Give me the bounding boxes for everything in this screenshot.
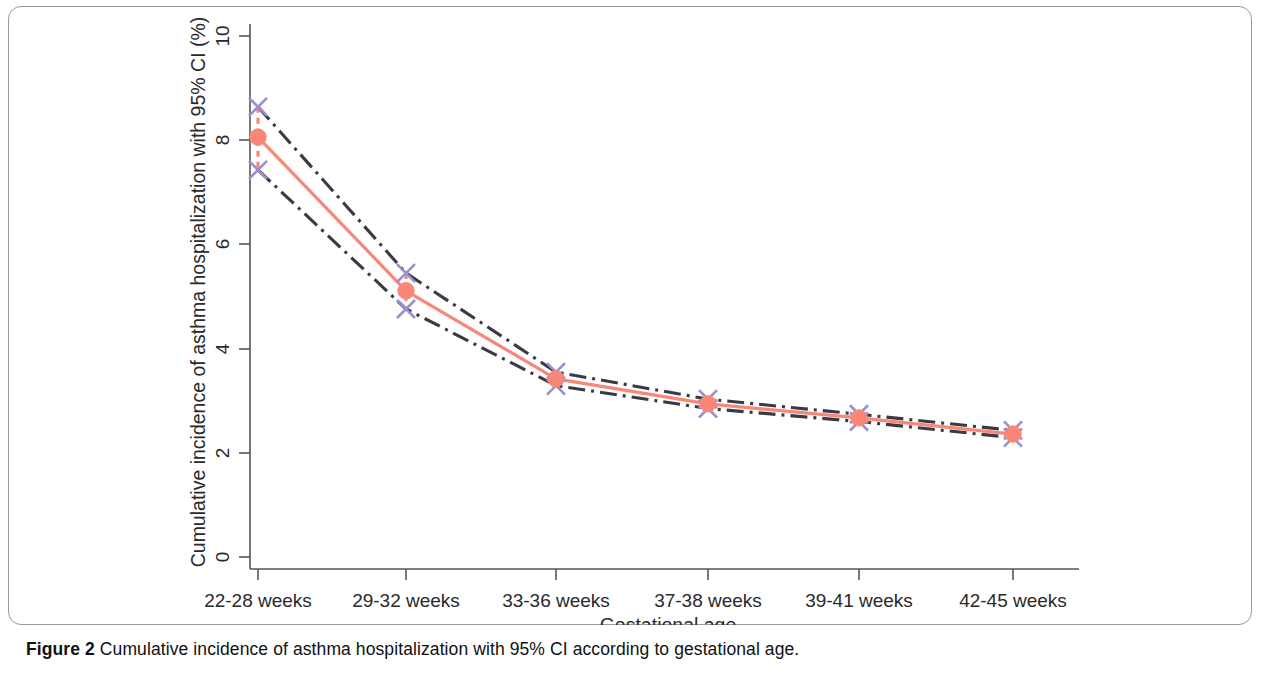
incidence-point-marker-3 bbox=[700, 396, 716, 412]
x-axis-tick-labels: 22-28 weeks 29-32 weeks 33-36 weeks 37-3… bbox=[204, 590, 1067, 611]
figure-page: Cumulative incidence of asthma hospitali… bbox=[0, 0, 1264, 680]
y-axis-title: Cumulative incidence of asthma hospitali… bbox=[187, 17, 209, 568]
y-axis-tick-labels: 0 2 4 6 8 10 bbox=[212, 25, 233, 562]
ci-x-marker-lower-1 bbox=[397, 300, 415, 318]
x-tick-label-29-32-weeks: 29-32 weeks bbox=[352, 590, 460, 611]
x-axis-title: Gestational age bbox=[600, 614, 737, 625]
figure-caption-text: Cumulative incidence of asthma hospitali… bbox=[100, 639, 799, 659]
upper-ci-line bbox=[258, 107, 1013, 431]
x-tick-label-22-28-weeks: 22-28 weeks bbox=[204, 590, 312, 611]
chart-plot-area: Cumulative incidence of asthma hospitali… bbox=[0, 0, 1264, 625]
figure-caption-label: Figure 2 bbox=[26, 639, 95, 659]
y-tick-label-2: 2 bbox=[212, 448, 233, 459]
incidence-point-marker-5 bbox=[1005, 426, 1021, 442]
x-tick-label-39-41-weeks: 39-41 weeks bbox=[805, 590, 913, 611]
figure-caption: Figure 2 Cumulative incidence of asthma … bbox=[26, 638, 1236, 660]
incidence-point-marker-4 bbox=[851, 410, 867, 426]
x-tick-label-42-45-weeks: 42-45 weeks bbox=[959, 590, 1067, 611]
incidence-point-marker-0 bbox=[250, 129, 266, 145]
y-tick-label-8: 8 bbox=[212, 135, 233, 146]
ci-x-marker-upper-0 bbox=[249, 98, 267, 116]
incidence-point-marker-1 bbox=[398, 283, 414, 299]
y-axis-ticks bbox=[239, 36, 250, 557]
lower-ci-line bbox=[258, 170, 1013, 438]
y-tick-label-4: 4 bbox=[212, 343, 233, 354]
incidence-line bbox=[258, 137, 1013, 434]
chart-series-layer bbox=[249, 98, 1022, 447]
y-tick-label-10: 10 bbox=[212, 25, 233, 46]
x-tick-label-33-36-weeks: 33-36 weeks bbox=[502, 590, 610, 611]
y-tick-label-6: 6 bbox=[212, 239, 233, 250]
incidence-point-marker-2 bbox=[548, 371, 564, 387]
y-tick-label-0: 0 bbox=[212, 552, 233, 563]
x-tick-label-37-38-weeks: 37-38 weeks bbox=[654, 590, 762, 611]
ci-x-marker-upper-1 bbox=[397, 264, 415, 282]
cumulative-incidence-line-chart: Cumulative incidence of asthma hospitali… bbox=[0, 0, 1264, 625]
x-axis-ticks bbox=[258, 569, 1013, 580]
